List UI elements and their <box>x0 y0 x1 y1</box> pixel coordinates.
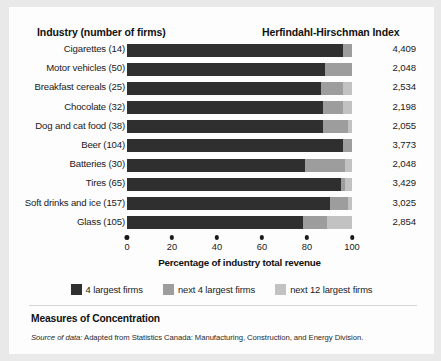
row-hhi-value: 2,048 <box>361 62 416 73</box>
row-label: Batteries (30) <box>0 158 125 169</box>
footer-divider <box>29 305 417 306</box>
legend-swatch-icon <box>163 284 174 295</box>
x-axis-tick: 0 <box>124 235 129 252</box>
chart-row: Motor vehicles (50)2,048 <box>9 61 434 80</box>
tick-dot-icon <box>305 235 310 240</box>
tick-label: 60 <box>257 242 267 252</box>
bar-segment-2 <box>323 120 348 133</box>
row-label: Soft drinks and ice (157) <box>0 197 125 208</box>
tick-label: 40 <box>212 242 222 252</box>
bar-segment-1 <box>127 139 343 152</box>
bar-segment-2 <box>323 101 343 114</box>
bar-segment-1 <box>127 178 341 191</box>
legend-swatch-icon <box>71 284 82 295</box>
tick-dot-icon <box>350 235 355 240</box>
legend-label: 4 largest firms <box>86 284 143 295</box>
industry-column-header: Industry (number of firms) <box>37 26 166 38</box>
bar-segment-2 <box>330 197 348 210</box>
bar-segment-2 <box>325 63 352 76</box>
row-hhi-value: 2,534 <box>361 81 416 92</box>
row-label: Dog and cat food (38) <box>0 120 125 131</box>
bar-segment-3 <box>327 216 352 229</box>
tick-label: 20 <box>167 242 177 252</box>
row-label: Tires (65) <box>0 177 125 188</box>
row-label: Glass (105) <box>0 216 125 227</box>
stacked-bar <box>127 120 352 133</box>
row-hhi-value: 4,409 <box>361 43 416 54</box>
legend-item: 4 largest firms <box>71 284 143 295</box>
stacked-bar <box>127 197 352 210</box>
chart-rows: Cigarettes (14)4,409Motor vehicles (50)2… <box>9 42 434 234</box>
tick-dot-icon <box>215 235 220 240</box>
chart-row: Chocolate (32)2,198 <box>9 100 434 119</box>
stacked-bar <box>127 44 352 57</box>
tick-dot-icon <box>170 235 175 240</box>
bar-segment-2 <box>321 82 344 95</box>
x-axis-tick: 60 <box>257 235 267 252</box>
chart-row: Cigarettes (14)4,409 <box>9 42 434 61</box>
footer-title: Measures of Concentration <box>31 313 160 324</box>
bar-segment-3 <box>348 197 353 210</box>
chart-row: Glass (105)2,854 <box>9 215 434 234</box>
legend-label: next 4 largest firms <box>178 284 255 295</box>
bar-segment-2 <box>305 159 346 172</box>
bar-segment-3 <box>348 120 353 133</box>
row-hhi-value: 2,048 <box>361 158 416 169</box>
bar-segment-3 <box>343 101 352 114</box>
tick-dot-icon <box>260 235 265 240</box>
bar-segment-3 <box>345 159 352 172</box>
stacked-bar <box>127 216 352 229</box>
footer-source-text: Adapted from Statistics Canada: Manufact… <box>84 333 363 342</box>
x-axis: 020406080100 Percentage of industry tota… <box>9 235 434 275</box>
row-label: Chocolate (32) <box>0 101 125 112</box>
bar-segment-1 <box>127 82 321 95</box>
row-label: Breakfast cereals (25) <box>0 81 125 92</box>
chart-row: Beer (104)3,773 <box>9 138 434 157</box>
stacked-bar <box>127 159 352 172</box>
footer-source-prefix: Source of data: <box>31 333 82 342</box>
tick-label: 0 <box>124 242 129 252</box>
chart-legend: 4 largest firmsnext 4 largest firmsnext … <box>9 284 434 295</box>
row-hhi-value: 2,055 <box>361 120 416 131</box>
legend-label: next 12 largest firms <box>290 284 372 295</box>
bar-segment-1 <box>127 101 323 114</box>
bar-segment-3 <box>345 178 352 191</box>
row-label: Beer (104) <box>0 139 125 150</box>
bar-segment-3 <box>343 82 352 95</box>
x-axis-tick: 100 <box>344 235 360 252</box>
stacked-bar <box>127 139 352 152</box>
figure-panel: Industry (number of firms) Herfindahl-Hi… <box>9 7 434 354</box>
chart-row: Dog and cat food (38)2,055 <box>9 119 434 138</box>
row-hhi-value: 2,854 <box>361 216 416 227</box>
legend-item: next 4 largest firms <box>163 284 255 295</box>
bar-segment-1 <box>127 216 303 229</box>
row-hhi-value: 3,429 <box>361 177 416 188</box>
chart-row: Batteries (30)2,048 <box>9 157 434 176</box>
chart-row: Breakfast cereals (25)2,534 <box>9 80 434 99</box>
footer-source: Source of data: Adapted from Statistics … <box>31 333 363 342</box>
legend-item: next 12 largest firms <box>275 284 372 295</box>
x-axis-tick: 40 <box>212 235 222 252</box>
row-hhi-value: 2,198 <box>361 101 416 112</box>
row-label: Cigarettes (14) <box>0 43 125 54</box>
x-axis-tick: 80 <box>302 235 312 252</box>
row-label: Motor vehicles (50) <box>0 62 125 73</box>
stacked-bar <box>127 178 352 191</box>
bar-segment-1 <box>127 63 325 76</box>
stacked-bar <box>127 101 352 114</box>
x-axis-tick: 20 <box>167 235 177 252</box>
bar-segment-2 <box>343 44 352 57</box>
chart-row: Tires (65)3,429 <box>9 176 434 195</box>
bar-segment-1 <box>127 197 330 210</box>
hhi-column-header: Herfindahl-Hirschman Index <box>262 26 399 38</box>
bar-segment-1 <box>127 159 305 172</box>
bar-segment-2 <box>343 139 352 152</box>
bar-segment-2 <box>303 216 328 229</box>
tick-dot-icon <box>125 235 130 240</box>
tick-label: 80 <box>302 242 312 252</box>
stacked-bar <box>127 82 352 95</box>
row-hhi-value: 3,773 <box>361 139 416 150</box>
bar-segment-1 <box>127 44 343 57</box>
stacked-bar <box>127 63 352 76</box>
tick-label: 100 <box>344 242 360 252</box>
